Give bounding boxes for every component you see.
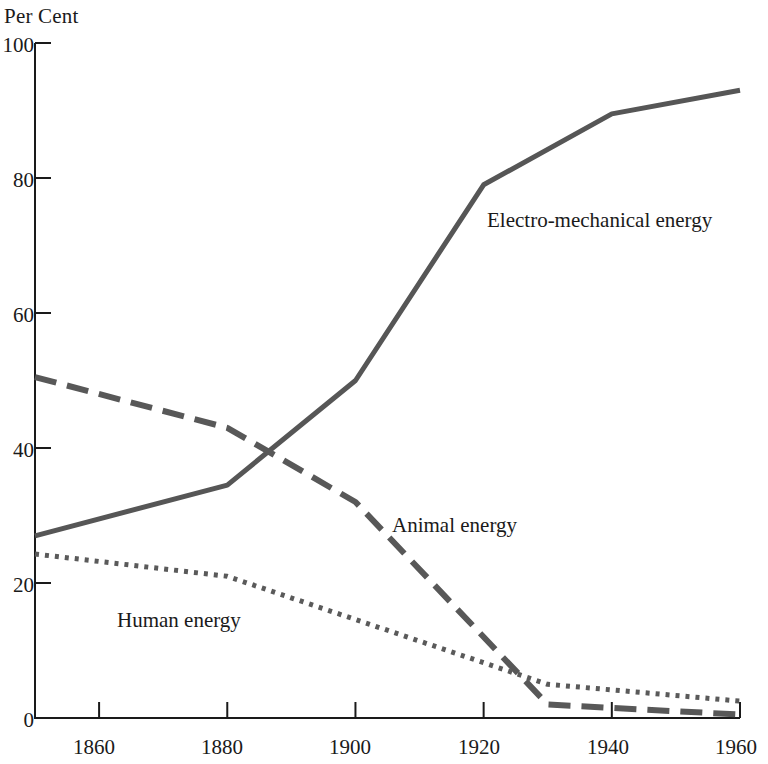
plot-canvas — [0, 0, 768, 764]
axis-ticks — [35, 43, 740, 718]
axis-lines — [35, 43, 740, 718]
series-line-electro-mechanical-energy — [35, 90, 740, 536]
series-group — [35, 90, 740, 714]
series-line-animal-energy — [35, 377, 740, 714]
axis-group — [35, 43, 740, 718]
energy-transition-chart: Per Cent 100 80 60 40 20 0 1860 1880 190… — [0, 0, 768, 764]
series-line-human-energy — [35, 554, 740, 701]
